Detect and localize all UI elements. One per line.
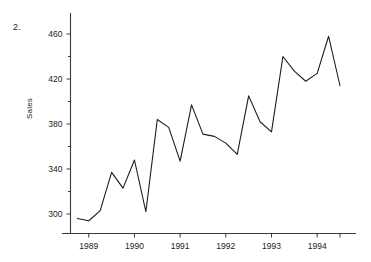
line-chart-plot: 300340380420460 198919901991199219931994 <box>0 0 371 262</box>
y-tick-label: 420 <box>48 74 62 84</box>
x-tick-label: 1991 <box>171 241 190 251</box>
y-tick-label: 340 <box>48 164 62 174</box>
x-axis-ticks: 198919901991199219931994 <box>79 234 340 251</box>
sales-series-line <box>77 36 340 221</box>
chart-figure: 2. Sales 300340380420460 198919901991199… <box>0 0 371 262</box>
y-axis-ticks: 300340380420460 <box>48 29 70 219</box>
x-tick-label: 1994 <box>308 241 327 251</box>
x-tick-label: 1990 <box>125 241 144 251</box>
y-tick-label: 380 <box>48 119 62 129</box>
x-tick-label: 1993 <box>262 241 281 251</box>
y-tick-label: 460 <box>48 29 62 39</box>
y-tick-label: 300 <box>48 209 62 219</box>
x-tick-label: 1992 <box>216 241 235 251</box>
x-tick-label: 1989 <box>79 241 98 251</box>
